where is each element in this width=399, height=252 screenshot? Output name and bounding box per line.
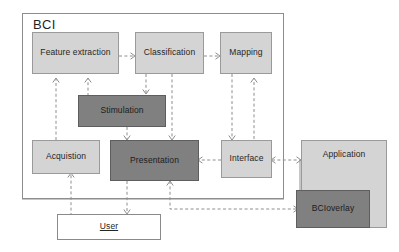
node-label: User [100, 222, 118, 231]
node-mapping[interactable]: Mapping [220, 32, 272, 74]
node-label: Classification [144, 48, 195, 57]
node-classification[interactable]: Classification [135, 32, 204, 74]
node-label: Stimulation [100, 106, 143, 115]
node-label: Application [323, 150, 366, 159]
node-label: Mapping [229, 48, 262, 57]
node-acquistion[interactable]: Acquistion [32, 140, 100, 174]
node-feature-extraction[interactable]: Feature extraction [32, 32, 119, 74]
node-presentation[interactable]: Presentation [110, 140, 199, 181]
node-interface[interactable]: Interface [221, 140, 272, 178]
node-user[interactable]: User [57, 214, 161, 240]
node-label: Presentation [130, 156, 179, 165]
node-label: Interface [230, 154, 264, 163]
node-label: Feature extraction [40, 48, 110, 57]
node-label: Acquistion [46, 152, 86, 161]
node-label: BCIoverlay [312, 204, 355, 213]
diagram-canvas: BCI [0, 0, 399, 252]
node-stimulation[interactable]: Stimulation [78, 95, 166, 127]
node-bcioverlay[interactable]: BCIoverlay [296, 190, 370, 228]
